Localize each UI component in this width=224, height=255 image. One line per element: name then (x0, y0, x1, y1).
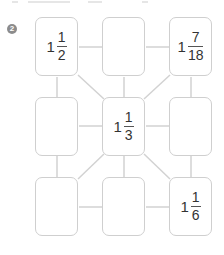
mixed-number: 1 7 18 (178, 30, 204, 63)
numerator: 1 (124, 110, 134, 125)
cell-r1-c2-blank[interactable] (102, 17, 145, 76)
fraction: 1 6 (191, 190, 201, 223)
cell-r3-c3: 1 1 6 (169, 177, 212, 236)
whole-part: 1 (46, 38, 54, 55)
denominator: 3 (125, 128, 133, 143)
mixed-number: 1 1 6 (180, 190, 200, 223)
fraction: 1 2 (57, 30, 67, 63)
numerator: 1 (57, 30, 67, 45)
denominator: 6 (192, 208, 200, 223)
whole-part: 1 (180, 198, 188, 215)
numerator: 7 (191, 30, 201, 45)
denominator: 18 (188, 48, 204, 63)
numerator: 1 (191, 190, 201, 205)
cell-r2-c2: 1 1 3 (102, 97, 145, 156)
mixed-number: 1 1 2 (46, 30, 66, 63)
fraction: 1 3 (124, 110, 134, 143)
cell-r1-c1: 1 1 2 (35, 17, 78, 76)
whole-part: 1 (178, 38, 186, 55)
fraction: 7 18 (188, 30, 204, 63)
denominator: 2 (58, 48, 66, 63)
mixed-number: 1 1 3 (113, 110, 133, 143)
cell-r3-c1-blank[interactable] (35, 177, 78, 236)
whole-part: 1 (113, 118, 121, 135)
cell-r2-c3-blank[interactable] (169, 97, 212, 156)
cell-r3-c2-blank[interactable] (102, 177, 145, 236)
cell-r2-c1-blank[interactable] (35, 97, 78, 156)
cell-r1-c3: 1 7 18 (169, 17, 212, 76)
